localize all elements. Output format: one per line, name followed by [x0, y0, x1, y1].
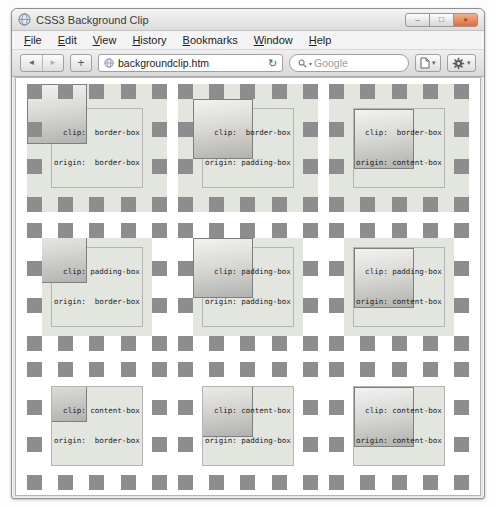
minimize-button[interactable]: –: [405, 13, 430, 27]
dashed-border-top: [178, 362, 318, 377]
page-menu-dropdown-icon: ▾: [432, 59, 436, 67]
url-text[interactable]: backgroundclip.htm: [118, 57, 264, 69]
new-tab-button[interactable]: +: [70, 54, 92, 72]
menu-help[interactable]: Help: [301, 32, 340, 48]
dashed-border-top: [27, 84, 167, 99]
demo-clip-content-origin-content: clip: content-box origin: content-box: [329, 362, 469, 490]
demo-label: clip: padding-box origin: content-box: [341, 247, 457, 327]
reload-icon[interactable]: ↻: [268, 57, 277, 70]
dashed-border-top: [329, 362, 469, 377]
demo-clip-border-origin-padding: clip: border-box origin: padding-box: [178, 84, 318, 212]
origin-label: origin: padding-box: [190, 297, 306, 307]
settings-menu-button[interactable]: ▾: [447, 54, 476, 72]
demo-clip-border-origin-border: clip: border-box origin: border-box: [27, 84, 167, 212]
address-bar[interactable]: backgroundclip.htm ↻: [98, 54, 283, 72]
dashed-border-bottom: [178, 197, 318, 212]
clip-label: clip: content-box: [39, 406, 155, 416]
dashed-border-bottom: [329, 336, 469, 351]
demo-clip-padding-origin-content: clip: padding-box origin: content-box: [329, 223, 469, 351]
clip-label: clip: padding-box: [341, 267, 457, 277]
history-nav-group: ◄ ►: [20, 54, 64, 72]
demo-label: clip: padding-box origin: padding-box: [190, 247, 306, 327]
dashed-border-top: [329, 84, 469, 99]
dashed-border-top: [178, 84, 318, 99]
dashed-border-bottom: [27, 336, 167, 351]
demo-label: clip: border-box origin: content-box: [341, 108, 457, 188]
demo-label: clip: content-box origin: content-box: [341, 386, 457, 466]
menu-window[interactable]: Window: [246, 32, 301, 48]
dashed-border-bottom: [329, 475, 469, 490]
origin-label: origin: border-box: [39, 297, 155, 307]
demo-clip-padding-origin-padding: clip: padding-box origin: padding-box: [178, 223, 318, 351]
page-favicon-icon: [104, 58, 114, 68]
close-button[interactable]: ×: [453, 13, 478, 27]
origin-label: origin: content-box: [341, 436, 457, 446]
window-title: CSS3 Background Clip: [36, 14, 406, 26]
origin-label: origin: padding-box: [190, 436, 306, 446]
dashed-border-bottom: [27, 197, 167, 212]
search-engine-dropdown-icon[interactable]: ▾: [309, 60, 312, 67]
clip-label: clip: padding-box: [39, 267, 155, 277]
origin-label: origin: padding-box: [190, 158, 306, 168]
demo-label: clip: border-box origin: padding-box: [190, 108, 306, 188]
dashed-border-bottom: [178, 475, 318, 490]
menu-view[interactable]: View: [85, 32, 125, 48]
menu-edit[interactable]: Edit: [50, 32, 85, 48]
forward-button[interactable]: ►: [42, 55, 63, 71]
clip-label: clip: padding-box: [190, 267, 306, 277]
window-controls: – □ ×: [406, 13, 478, 27]
navigation-toolbar: ◄ ► + backgroundclip.htm ↻ ▾: [12, 50, 484, 77]
clip-label: clip: border-box: [341, 128, 457, 138]
demo-label: clip: padding-box origin: border-box: [39, 247, 155, 327]
dashed-border-top: [329, 223, 469, 238]
origin-label: origin: border-box: [39, 436, 155, 446]
page-menu-button[interactable]: ▾: [415, 54, 441, 72]
maximize-button[interactable]: □: [429, 13, 454, 27]
search-input[interactable]: [314, 57, 400, 69]
dashed-border-top: [178, 223, 318, 238]
search-icon: [298, 59, 307, 68]
menu-file[interactable]: File: [16, 32, 50, 48]
settings-menu-dropdown-icon: ▾: [467, 59, 471, 67]
gear-icon: [452, 57, 465, 70]
browser-window: CSS3 Background Clip – □ × File Edit Vie…: [11, 8, 485, 499]
clip-label: clip: content-box: [341, 406, 457, 416]
dashed-border-bottom: [27, 475, 167, 490]
page-viewport: clip: border-box origin: border-box clip…: [15, 77, 481, 496]
demo-clip-border-origin-content: clip: border-box origin: content-box: [329, 84, 469, 212]
demo-label: clip: content-box origin: border-box: [39, 386, 155, 466]
demo-clip-content-origin-padding: clip: content-box origin: padding-box: [178, 362, 318, 490]
dashed-border-top: [27, 223, 167, 238]
menu-history[interactable]: History: [124, 32, 174, 48]
search-bar[interactable]: ▾: [289, 54, 409, 72]
demo-grid: clip: border-box origin: border-box clip…: [16, 78, 480, 490]
back-button[interactable]: ◄: [21, 55, 42, 71]
clip-label: clip: content-box: [190, 406, 306, 416]
demo-label: clip: border-box origin: border-box: [39, 108, 155, 188]
app-globe-icon: [18, 13, 31, 26]
demo-clip-padding-origin-border: clip: padding-box origin: border-box: [27, 223, 167, 351]
clip-label: clip: border-box: [39, 128, 155, 138]
origin-label: origin: content-box: [341, 297, 457, 307]
demo-label: clip: content-box origin: padding-box: [190, 386, 306, 466]
menu-bar: File Edit View History Bookmarks Window …: [12, 31, 484, 50]
page-icon: [420, 57, 430, 69]
menu-bookmarks[interactable]: Bookmarks: [175, 32, 246, 48]
origin-label: origin: content-box: [341, 158, 457, 168]
origin-label: origin: border-box: [39, 158, 155, 168]
dashed-border-bottom: [178, 336, 318, 351]
dashed-border-top: [27, 362, 167, 377]
demo-clip-content-origin-border: clip: content-box origin: border-box: [27, 362, 167, 490]
clip-label: clip: border-box: [190, 128, 306, 138]
title-bar: CSS3 Background Clip – □ ×: [12, 9, 484, 31]
dashed-border-bottom: [329, 197, 469, 212]
